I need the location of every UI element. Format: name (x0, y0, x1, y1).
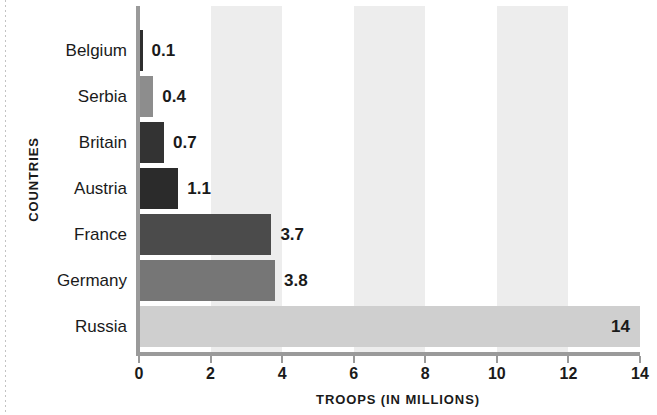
x-axis-title: TROOPS (IN MILLIONS) (0, 392, 657, 407)
x-tick-mark (210, 356, 212, 363)
bar-value-label: 3.8 (284, 271, 308, 291)
x-tick-label: 8 (421, 365, 430, 383)
bar-chart: COUNTRIES 0.1Belgium0.4Serbia0.7Britain1… (0, 0, 657, 415)
x-tick-label: 0 (135, 365, 144, 383)
x-axis-line (136, 352, 640, 356)
category-label-serbia: Serbia (78, 87, 127, 107)
bar-row: 0.4Serbia (139, 76, 640, 117)
x-tick-mark (138, 356, 140, 363)
x-tick-label: 14 (631, 365, 649, 383)
bar-serbia[interactable]: 0.4 (139, 76, 153, 117)
x-tick-label: 4 (278, 365, 287, 383)
category-label-france: France (74, 225, 127, 245)
category-label-germany: Germany (57, 271, 127, 291)
x-tick-label: 10 (488, 365, 506, 383)
x-tick-label: 6 (349, 365, 358, 383)
category-label-britain: Britain (79, 133, 127, 153)
bar-value-label: 0.7 (173, 133, 197, 153)
bar-austria[interactable]: 1.1 (139, 168, 178, 209)
x-tick-mark (639, 356, 641, 363)
bar-row: 14Russia (139, 306, 640, 347)
left-dotted-divider (5, 0, 6, 415)
x-tick-label: 2 (206, 365, 215, 383)
category-label-belgium: Belgium (66, 41, 127, 61)
x-tick-mark (353, 356, 355, 363)
x-tick-mark (496, 356, 498, 363)
x-tick-label: 12 (560, 365, 578, 383)
bar-value-label: 3.7 (280, 225, 304, 245)
bar-france[interactable]: 3.7 (139, 214, 271, 255)
bar-britain[interactable]: 0.7 (139, 122, 164, 163)
bar-value-label: 14 (611, 317, 630, 337)
bar-value-label: 0.1 (152, 41, 176, 61)
x-tick-mark (424, 356, 426, 363)
category-label-russia: Russia (75, 317, 127, 337)
bar-germany[interactable]: 3.8 (139, 260, 275, 301)
bar-value-label: 1.1 (187, 179, 211, 199)
bar-row: 0.7Britain (139, 122, 640, 163)
bar-row: 3.8Germany (139, 260, 640, 301)
bar-row: 1.1Austria (139, 168, 640, 209)
bar-row: 0.1Belgium (139, 30, 640, 71)
bar-value-label: 0.4 (162, 87, 186, 107)
bar-row: 3.7France (139, 214, 640, 255)
y-axis-title: COUNTRIES (26, 100, 41, 260)
bar-russia[interactable]: 14 (139, 306, 640, 347)
category-label-austria: Austria (74, 179, 127, 199)
y-axis-line (136, 6, 140, 352)
plot-area: 0.1Belgium0.4Serbia0.7Britain1.1Austria3… (139, 6, 640, 352)
x-tick-mark (567, 356, 569, 363)
x-tick-mark (281, 356, 283, 363)
